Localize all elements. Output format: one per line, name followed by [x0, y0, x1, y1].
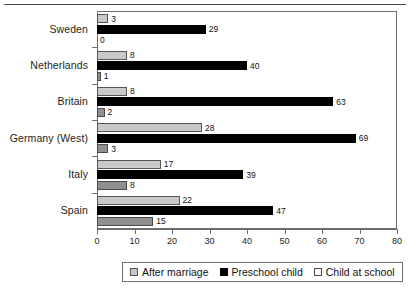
bar-value-label: 3	[111, 145, 116, 154]
x-axis-tick-label: 20	[167, 236, 177, 246]
category-axis-labels: SwedenNetherlandsBritainGermany (West)It…	[0, 11, 92, 229]
category-label: Germany (West)	[10, 133, 88, 144]
chart-legend: After marriagePreschool childChild at sc…	[122, 262, 403, 282]
x-axis-tick-label: 60	[317, 236, 327, 246]
x-axis-tick-label: 40	[242, 236, 252, 246]
legend-item[interactable]: Child at school	[314, 267, 395, 278]
category-label: Sweden	[49, 24, 88, 35]
category-label: Britain	[58, 96, 88, 107]
bar-value-label: 47	[276, 207, 285, 216]
category-label: Italy	[68, 169, 88, 180]
bar-value-label: 0	[100, 36, 105, 45]
bar-value-label: 8	[130, 181, 135, 190]
legend-label: After marriage	[142, 267, 209, 278]
y-axis-tick	[92, 120, 97, 121]
bar-netherlands-after-marriage	[97, 51, 127, 60]
legend-item[interactable]: After marriage	[130, 267, 209, 278]
bar-spain-after-marriage	[97, 196, 180, 205]
bar-value-label: 8	[130, 87, 135, 96]
bar-netherlands-preschool-child	[97, 61, 247, 70]
x-axis-tick-label: 0	[94, 236, 99, 246]
top-divider-rule	[4, 4, 406, 5]
bar-value-label: 15	[156, 217, 165, 226]
legend-item[interactable]: Preschool child	[220, 267, 303, 278]
category-label: Spain	[61, 205, 88, 216]
x-axis-tick	[135, 229, 136, 234]
x-axis-tick	[322, 229, 323, 234]
y-axis-tick	[92, 156, 97, 157]
bar-italy-child-at-school	[97, 181, 127, 190]
bar-spain-preschool-child	[97, 206, 273, 215]
x-axis-tick	[397, 229, 398, 234]
bar-value-label: 22	[183, 196, 192, 205]
bar-britain-after-marriage	[97, 87, 127, 96]
bar-italy-preschool-child	[97, 170, 243, 179]
x-axis-tick-label: 10	[129, 236, 139, 246]
bar-spain-child-at-school	[97, 217, 153, 226]
x-axis-tick	[97, 229, 98, 234]
y-axis-tick	[92, 84, 97, 85]
bar-value-label: 69	[359, 134, 368, 143]
legend-label: Child at school	[326, 267, 395, 278]
bar-value-label: 28	[205, 124, 214, 133]
bars-layer: 3290840186322869317398224715	[97, 11, 397, 229]
bar-germany-west--preschool-child	[97, 134, 356, 143]
bar-value-label: 63	[336, 98, 345, 107]
bar-value-label: 40	[250, 62, 259, 71]
bar-value-label: 3	[111, 15, 116, 24]
bar-value-label: 39	[246, 171, 255, 180]
bar-value-label: 8	[130, 51, 135, 60]
bar-sweden-after-marriage	[97, 14, 108, 23]
bar-value-label: 29	[209, 25, 218, 34]
y-axis-tick	[92, 47, 97, 48]
legend-swatch-icon	[314, 268, 322, 276]
bar-britain-child-at-school	[97, 108, 105, 117]
x-axis-tick	[285, 229, 286, 234]
bar-italy-after-marriage	[97, 160, 161, 169]
x-axis-tick-label: 30	[204, 236, 214, 246]
legend-label: Preschool child	[232, 267, 303, 278]
category-label: Netherlands	[30, 60, 88, 71]
legend-swatch-icon	[220, 268, 228, 276]
x-axis-tick-label: 50	[279, 236, 289, 246]
x-axis-tick	[360, 229, 361, 234]
bar-germany-west--child-at-school	[97, 144, 108, 153]
legend-swatch-icon	[130, 268, 138, 276]
bar-sweden-preschool-child	[97, 25, 206, 34]
bar-value-label: 1	[104, 72, 109, 81]
bar-germany-west--after-marriage	[97, 123, 202, 132]
x-axis-tick	[172, 229, 173, 234]
bar-britain-preschool-child	[97, 97, 333, 106]
bar-netherlands-child-at-school	[97, 72, 101, 81]
bar-value-label: 17	[164, 160, 173, 169]
y-axis-tick	[92, 193, 97, 194]
bar-value-label: 2	[108, 108, 113, 117]
x-axis-tick	[210, 229, 211, 234]
x-axis-tick-label: 70	[354, 236, 364, 246]
chart-page: SwedenNetherlandsBritainGermany (West)It…	[0, 0, 410, 293]
x-axis-tick-label: 80	[392, 236, 402, 246]
x-axis-tick	[247, 229, 248, 234]
